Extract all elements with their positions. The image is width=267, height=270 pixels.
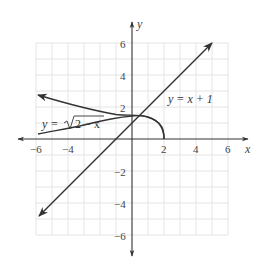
x-axis-label: x <box>244 142 251 156</box>
x-tick: 6 <box>225 143 231 155</box>
y-tick: −6 <box>114 230 126 242</box>
graph: x y −6 −4 2 4 6 6 4 2 −2 −4 −6 y = x + 1… <box>0 0 267 270</box>
x-tick: 4 <box>193 143 199 155</box>
line-equation-label: y = x + 1 <box>167 92 213 106</box>
x-tick: −6 <box>30 143 42 155</box>
y-axis-label: y <box>136 17 143 31</box>
y-tick: 4 <box>120 70 126 82</box>
svg-text:y =: y = <box>41 117 58 131</box>
x-tick: 2 <box>161 143 167 155</box>
y-tick: 6 <box>120 38 126 50</box>
svg-text:2 − x: 2 − x <box>75 117 100 131</box>
y-tick: −2 <box>114 166 126 178</box>
y-tick: 2 <box>120 102 126 114</box>
x-tick: −4 <box>62 143 74 155</box>
y-tick: −4 <box>114 198 126 210</box>
